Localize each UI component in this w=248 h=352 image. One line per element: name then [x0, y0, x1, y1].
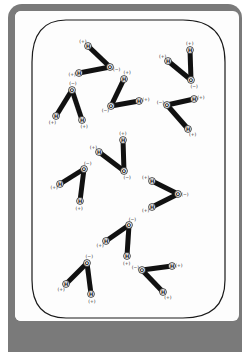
oxygen-atom-B-symbol: O [70, 87, 74, 93]
hydrogen-atom-B-2-charge: (+) [81, 124, 89, 129]
oxygen-atom-C-symbol: O [109, 103, 113, 109]
hydrogen-atom-G-1-charge: (+) [50, 185, 58, 190]
oxygen-atom-A-charge: (−) [113, 67, 121, 72]
hydrogen-atom-I-1-charge: (+) [97, 243, 105, 248]
oxygen-atom-I-symbol: O [127, 222, 131, 228]
hydrogen-atom-D-2-symbol: H [166, 58, 170, 64]
hydrogen-atom-B-2-symbol: H [80, 117, 84, 123]
oxygen-atom-A-symbol: O [108, 64, 112, 70]
hydrogen-atom-H-2-charge: (+) [142, 208, 150, 213]
hydrogen-atom-F-1-charge: (+) [119, 131, 127, 136]
oxygen-atom-J-symbol: O [85, 260, 89, 266]
oxygen-atom-D-charge: (−) [190, 84, 198, 89]
water-molecules-diagram: H(+)H(+)O(−)H(+)H(+)O(−)H(+)H(+)O(−)H(+)… [0, 0, 248, 352]
hydrogen-atom-G-2-symbol: H [78, 198, 82, 204]
hydrogen-atom-F-2-charge: (+) [90, 145, 98, 150]
oxygen-atom-G-symbol: O [82, 166, 86, 172]
oxygen-atom-F-symbol: O [122, 168, 126, 174]
hydrogen-atom-E-1-charge: (+) [197, 95, 205, 100]
hydrogen-atom-D-1-charge: (+) [186, 41, 194, 46]
hydrogen-atom-F-1-symbol: H [121, 137, 125, 143]
hydrogen-atom-B-1-charge: (+) [49, 120, 57, 125]
hydrogen-atom-H-1-symbol: H [150, 178, 154, 184]
oxygen-atom-C-charge: (−) [102, 108, 110, 113]
oxygen-atom-B-charge: (−) [69, 81, 77, 86]
bond-F-1 [123, 140, 124, 171]
hydrogen-atom-K-1-symbol: H [170, 263, 174, 269]
hydrogen-atom-C-2-charge: (+) [142, 97, 150, 102]
oxygen-atom-F-charge: (−) [124, 175, 132, 180]
hydrogen-atom-H-2-symbol: H [150, 204, 154, 210]
bond-I-2 [127, 225, 129, 256]
hydrogen-atom-A-1-charge: (+) [79, 39, 87, 44]
hydrogen-atom-K-1-charge: (+) [175, 263, 183, 268]
hydrogen-atom-C-1-charge: (+) [123, 70, 131, 75]
oxygen-atom-K-charge: (−) [132, 265, 140, 270]
hydrogen-atom-A-2-symbol: H [77, 70, 81, 76]
hydrogen-atom-D-1-symbol: H [188, 47, 192, 53]
bond-D-1 [190, 50, 191, 80]
oxygen-atom-H-charge: (−) [181, 192, 189, 197]
hydrogen-atom-J-2-symbol: H [89, 291, 93, 297]
hydrogen-atom-E-1-symbol: H [192, 96, 196, 102]
oxygen-atom-H: O(−) [175, 191, 189, 198]
hydrogen-atom-F-2-symbol: H [97, 149, 101, 155]
oxygen-atom-G-charge: (−) [84, 161, 92, 166]
oxygen-atom-E-symbol: O [165, 102, 169, 108]
hydrogen-atom-J-1-charge: (+) [57, 287, 65, 292]
oxygen-atom-H-symbol: O [176, 191, 180, 197]
hydrogen-atom-C-2-symbol: H [137, 98, 141, 104]
hydrogen-atom-J-2-charge: (+) [88, 299, 96, 304]
hydrogen-atom-I-2-charge: (+) [123, 261, 131, 266]
hydrogen-atom-E-2-charge: (+) [189, 132, 197, 137]
oxygen-atom-K-symbol: O [140, 267, 144, 273]
oxygen-atom-J-charge: (−) [86, 254, 94, 259]
oxygen-atom-D-symbol: O [189, 77, 193, 83]
hydrogen-atom-G-1-symbol: H [58, 181, 62, 187]
hydrogen-atom-B-1-symbol: H [54, 113, 58, 119]
hydrogen-atom-C-1-symbol: H [122, 76, 126, 82]
hydrogen-atom-A-2-charge: (+) [68, 72, 76, 77]
hydrogen-atom-G-2-charge: (+) [75, 206, 83, 211]
oxygen-atom-E-charge: (−) [157, 100, 165, 105]
hydrogen-atom-I-2-symbol: H [125, 253, 129, 259]
hydrogen-atom-I-1-symbol: H [104, 238, 108, 244]
hydrogen-atom-H-1-charge: (+) [142, 175, 150, 180]
oxygen-atom-I-charge: (−) [129, 217, 137, 222]
hydrogen-atom-D-2-charge: (+) [159, 54, 167, 59]
hydrogen-atom-K-2-charge: (+) [164, 295, 172, 300]
